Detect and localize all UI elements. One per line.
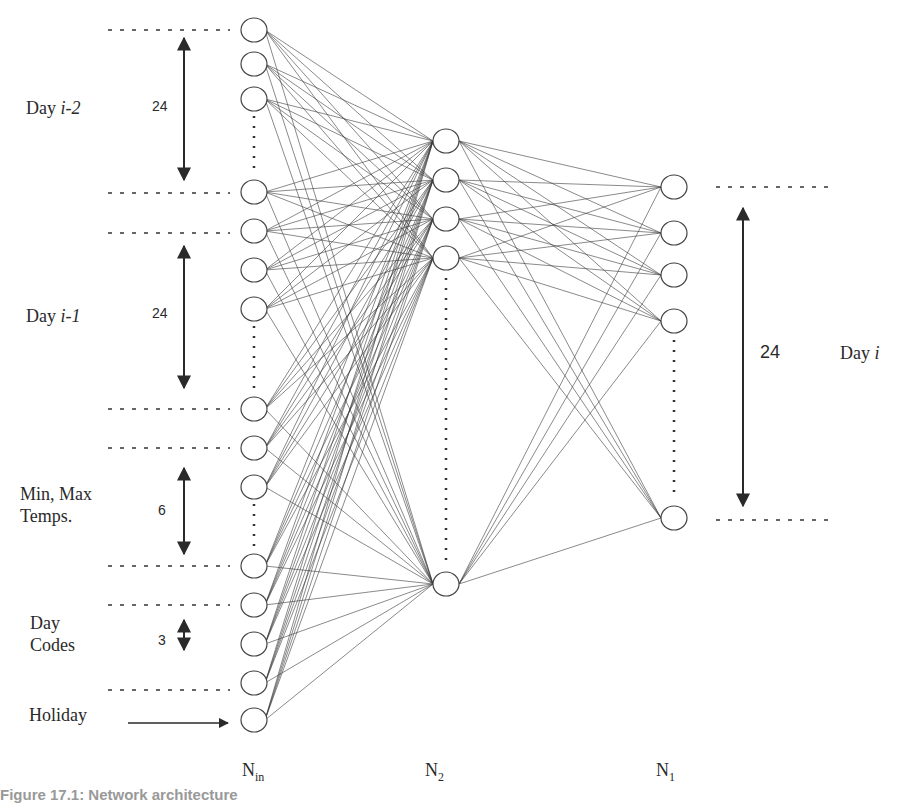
neuron-node xyxy=(241,87,267,111)
group-label-day-i-1: Day i-1 xyxy=(26,305,81,327)
neuron-node xyxy=(433,207,459,231)
neuron-node xyxy=(241,397,267,421)
neuron-node xyxy=(661,506,687,530)
neuron-node xyxy=(241,436,267,460)
neuron-node xyxy=(661,175,687,199)
group-label-temps: Min, Max Temps. xyxy=(20,483,92,527)
neuron-node xyxy=(241,180,267,204)
neuron-node xyxy=(241,258,267,282)
count-temps: 6 xyxy=(158,502,166,518)
neuron-node xyxy=(241,52,267,76)
neuron-node xyxy=(661,221,687,245)
count-day-i: 24 xyxy=(760,342,780,363)
neuron-node xyxy=(241,632,267,656)
layer-label-hidden: N2 xyxy=(425,760,444,785)
neuron-node xyxy=(241,219,267,243)
count-day-codes: 3 xyxy=(158,632,166,648)
neuron-node xyxy=(661,309,687,333)
group-label-holiday: Holiday xyxy=(29,704,87,726)
neuron-node xyxy=(241,671,267,695)
layer-label-input: Nin xyxy=(242,760,264,785)
neuron-node xyxy=(433,129,459,153)
neuron-node xyxy=(241,297,267,321)
neuron-node xyxy=(433,168,459,192)
group-label-day-codes: Day Codes xyxy=(30,612,75,656)
count-day-i-2: 24 xyxy=(152,98,168,114)
neuron-node xyxy=(241,593,267,617)
layer-label-output: N1 xyxy=(656,760,675,785)
neuron-node xyxy=(241,708,267,732)
neuron-node xyxy=(241,18,267,42)
neuron-node xyxy=(241,554,267,578)
neuron-node xyxy=(433,572,459,596)
count-day-i-1: 24 xyxy=(152,305,168,321)
neuron-node xyxy=(661,263,687,287)
neuron-node xyxy=(241,475,267,499)
neuron-node xyxy=(433,246,459,270)
figure-caption: Figure 17.1: Network architecture xyxy=(0,786,238,803)
group-label-day-i-2: Day i-2 xyxy=(26,97,81,119)
group-label-day-i: Day i xyxy=(840,342,880,364)
